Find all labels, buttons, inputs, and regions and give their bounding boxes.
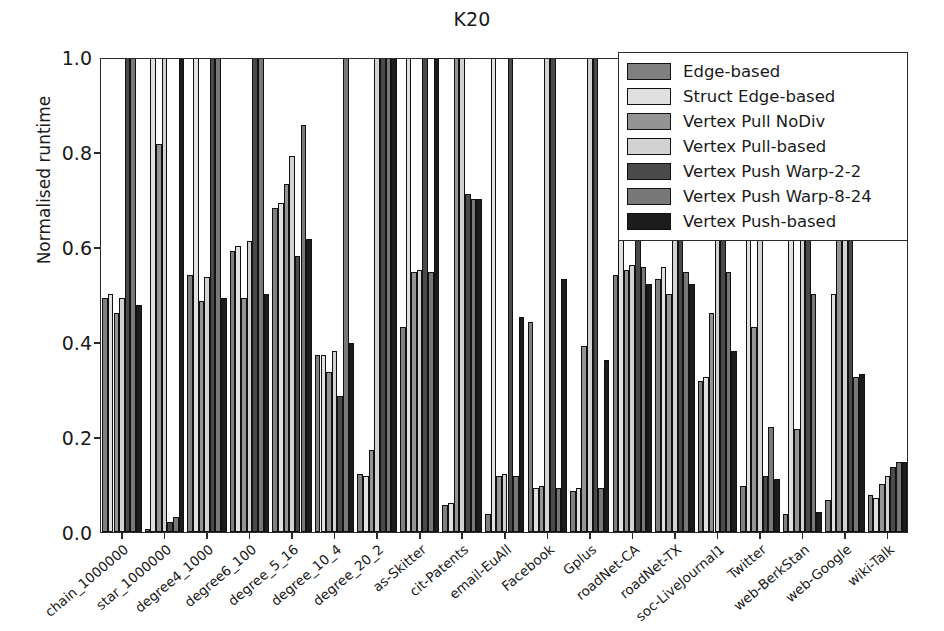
x-tick-mark: [717, 533, 719, 539]
x-tick-mark: [164, 533, 166, 539]
legend-item: Vertex Pull-based: [627, 134, 899, 159]
bar: [391, 58, 397, 532]
x-tick-mark: [759, 533, 761, 539]
x-tick-mark: [461, 533, 463, 539]
bar: [774, 479, 780, 532]
bar: [593, 58, 599, 532]
bar: [162, 58, 168, 532]
legend-swatch: [627, 63, 671, 80]
bar: [689, 284, 695, 532]
legend-item: Vertex Push Warp-2-2: [627, 159, 899, 184]
y-tick-label: 0.6: [46, 237, 92, 259]
bar: [221, 298, 227, 532]
legend-label: Vertex Push Warp-2-2: [683, 162, 861, 181]
legend-label: Struct Edge-based: [683, 87, 835, 106]
bar: [349, 343, 355, 532]
x-tick-mark: [632, 533, 634, 539]
y-tick-label: 0.0: [46, 522, 92, 544]
x-tick-mark: [547, 533, 549, 539]
chart-legend: Edge-basedStruct Edge-basedVertex Pull N…: [618, 52, 908, 241]
chart-figure: K20 Normalised runtime 0.00.20.40.60.81.…: [0, 0, 944, 631]
legend-label: Vertex Push-based: [683, 212, 836, 231]
y-axis-label: Normalised runtime: [34, 50, 54, 310]
y-tick-label: 0.4: [46, 332, 92, 354]
x-tick-mark: [674, 533, 676, 539]
legend-swatch: [627, 188, 671, 205]
y-tick-label: 1.0: [46, 47, 92, 69]
bar: [561, 279, 567, 532]
bar: [179, 58, 185, 532]
legend-item: Vertex Push-based: [627, 209, 899, 234]
bar: [508, 58, 514, 532]
legend-item: Edge-based: [627, 59, 899, 84]
legend-label: Vertex Push Warp-8-24: [683, 187, 872, 206]
bar: [434, 58, 440, 532]
y-tick-label: 0.2: [46, 427, 92, 449]
bar: [491, 58, 497, 532]
bar: [306, 239, 312, 532]
legend-item: Struct Edge-based: [627, 84, 899, 109]
bar: [859, 374, 865, 532]
bar: [811, 294, 817, 533]
legend-label: Vertex Pull-based: [683, 137, 826, 156]
bar: [604, 360, 610, 532]
bar: [550, 58, 556, 532]
bar: [519, 317, 525, 532]
x-tick-mark: [291, 533, 293, 539]
legend-label: Vertex Pull NoDiv: [683, 112, 825, 131]
x-tick-mark: [334, 533, 336, 539]
legend-swatch: [627, 213, 671, 230]
legend-item: Vertex Push Warp-8-24: [627, 184, 899, 209]
bar: [136, 305, 142, 532]
bar: [731, 351, 737, 533]
bar: [646, 284, 652, 532]
legend-swatch: [627, 113, 671, 130]
x-tick-mark: [121, 533, 123, 539]
bar: [264, 294, 270, 533]
bar: [476, 199, 482, 533]
x-tick-mark: [419, 533, 421, 539]
x-tick-mark: [249, 533, 251, 539]
bar: [902, 462, 908, 532]
x-tick-mark: [887, 533, 889, 539]
legend-item: Vertex Pull NoDiv: [627, 109, 899, 134]
legend-label: Edge-based: [683, 62, 780, 81]
x-tick-mark: [206, 533, 208, 539]
legend-swatch: [627, 163, 671, 180]
x-tick-mark: [376, 533, 378, 539]
chart-title: K20: [0, 8, 944, 30]
bar: [816, 512, 822, 532]
x-tick-mark: [802, 533, 804, 539]
y-tick-label: 0.8: [46, 142, 92, 164]
legend-swatch: [627, 138, 671, 155]
legend-swatch: [627, 88, 671, 105]
x-tick-mark: [844, 533, 846, 539]
x-tick-mark: [504, 533, 506, 539]
x-tick-mark: [589, 533, 591, 539]
